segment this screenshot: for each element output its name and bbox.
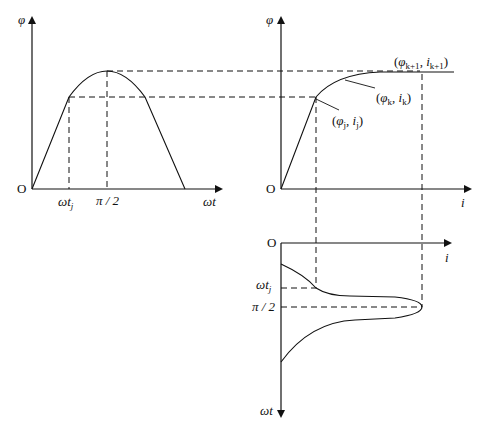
bottom-tick-halfpi: π / 2 (252, 299, 276, 314)
flux-waveform-curve (32, 71, 185, 189)
bottom-tick-wtj: ωtj (256, 277, 272, 294)
bottom-panel: O i ωtj π / 2 ωt (252, 235, 450, 418)
flux-current-diagram: φ O ωtj π / 2 ωt φ O i (φj, ij) (φk, ik)… (0, 0, 485, 433)
left-panel: φ O ωtj π / 2 ωt (17, 12, 221, 211)
bottom-y-label: ωt (260, 403, 273, 418)
current-waveform-curve (281, 264, 422, 362)
left-tick-wtj: ωtj (58, 194, 74, 211)
left-x-label: ωt (203, 194, 216, 209)
point-j-label: (φj, ij) (332, 113, 363, 130)
bottom-x-label: i (445, 250, 449, 265)
point-k1-label: (φk+1, ik+1) (394, 54, 448, 71)
right-panel: φ O i (φj, ij) (φk, ik) (φk+1, ik+1) (266, 12, 470, 307)
point-k-label: (φk, ik) (376, 90, 411, 107)
right-y-label: φ (266, 12, 273, 27)
pointer-j (316, 99, 339, 110)
left-y-label: φ (18, 12, 25, 27)
left-tick-halfpi: π / 2 (96, 193, 120, 208)
pointer-k (345, 80, 375, 88)
bottom-origin-label: O (267, 235, 276, 250)
magnetization-curve (281, 72, 454, 189)
right-x-label: i (461, 195, 465, 210)
right-origin-label: O (266, 181, 275, 196)
left-origin-label: O (17, 181, 26, 196)
